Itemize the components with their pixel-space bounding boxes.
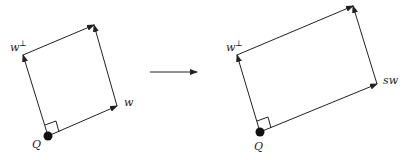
right-vector-wperp xyxy=(237,55,260,132)
right-right-angle-mark xyxy=(257,117,271,128)
left-right-edge xyxy=(94,25,117,106)
left-point-q xyxy=(44,132,53,141)
left-label-wperp-sup: ⊥ xyxy=(19,39,27,48)
right-figure: Q sw w ⊥ xyxy=(226,6,399,153)
left-top-edge xyxy=(23,25,94,55)
right-top-edge xyxy=(237,6,353,55)
right-point-q xyxy=(256,128,265,137)
diagram-canvas: Q w w ⊥ Q sw w ⊥ xyxy=(0,0,409,160)
left-figure: Q w w ⊥ xyxy=(10,25,134,151)
left-label-q: Q xyxy=(32,138,41,151)
left-right-angle-mark xyxy=(45,121,59,132)
left-vector-wperp xyxy=(23,55,48,136)
right-right-edge xyxy=(353,6,377,84)
right-label-sw: sw xyxy=(383,74,399,87)
right-vector-sw xyxy=(260,84,377,132)
right-label-q: Q xyxy=(254,140,263,153)
left-label-w: w xyxy=(124,96,134,109)
right-label-wperp-sup: ⊥ xyxy=(235,39,243,48)
